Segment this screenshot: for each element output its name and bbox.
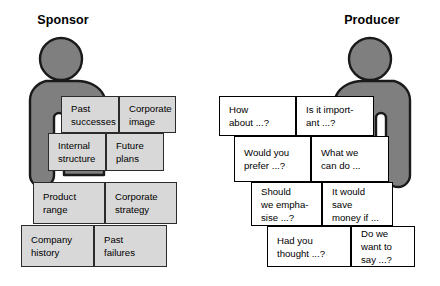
block-label-line: Do we [361, 227, 410, 240]
block-would-you-prefer: Would youprefer ...? [234, 136, 311, 182]
block-label-line: save [332, 198, 388, 211]
block-label-line: How [229, 103, 291, 116]
block-should-we-emphasise: Shouldwe empha-sise ...? [251, 182, 322, 226]
brick-wall-diagram: Sponsor Producer PastsuccessesCorporatei… [0, 0, 440, 286]
block-label-line: about ...? [229, 116, 291, 129]
block-had-you-thought: Had youthought ...? [267, 226, 351, 267]
block-label-line: Should [261, 185, 317, 198]
block-what-we-can-do: What wecan do ... [311, 136, 389, 182]
block-label-line: What we [321, 146, 384, 159]
block-label-line: Would you [244, 146, 306, 159]
block-how-about: Howabout ...? [219, 96, 296, 136]
block-label-line: It would [332, 185, 388, 198]
block-label-line: ant ...? [306, 116, 369, 129]
producer-wall: Howabout ...?Is it import-ant ...?Would … [0, 0, 440, 286]
block-label-line: Is it import- [306, 103, 369, 116]
block-label-line: thought ...? [277, 247, 346, 260]
block-label-line: prefer ...? [244, 159, 306, 172]
block-label-line: say ...? [361, 253, 410, 266]
block-label-line: can do ... [321, 159, 384, 172]
block-do-we-want-to-say: Do wewant tosay ...? [351, 226, 415, 267]
block-label-line: want to [361, 240, 410, 253]
block-is-it-important: Is it import-ant ...? [296, 96, 374, 136]
block-label-line: we empha- [261, 198, 317, 211]
block-it-would-save: It wouldsavemoney if ... [322, 182, 393, 226]
block-label-line: Had you [277, 234, 346, 247]
block-label-line: sise ...? [261, 211, 317, 224]
block-label-line: money if ... [332, 211, 388, 224]
